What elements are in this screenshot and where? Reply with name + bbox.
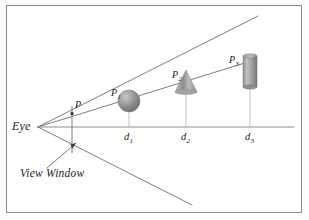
depth-d3-sub: 3 [251,137,255,145]
depth-d3-label: d3 [245,132,254,143]
point-p3-label: P3 [229,55,239,65]
depth-d2-base: d [181,131,186,142]
cylinder-object [243,54,257,89]
point-p2-label: P2 [172,70,182,80]
eye-label: Eye [12,120,31,132]
figure-root: Eye View Window P P1 P2 P3 d1 d2 d3 [0,0,309,220]
point-p3-sub: 3 [235,60,238,67]
depth-d2-sub: 2 [187,137,191,145]
depth-d3-base: d [245,131,250,142]
perspective-projection-diagram [0,0,309,220]
upper-frustum-ray [38,16,258,127]
view-window-label: View Window [20,168,84,180]
point-p2-sub: 2 [178,75,181,82]
point-p1-label: P1 [111,88,121,98]
object-sight-ray [38,62,248,127]
point-p-marker [71,112,74,115]
depth-d1-label: d1 [124,132,133,143]
lower-frustum-ray [38,127,192,205]
point-p-label: P [75,100,81,110]
depth-d1-base: d [124,131,129,142]
point-p1-sub: 1 [117,93,120,100]
view-window-leader-line [47,143,76,168]
depth-d2-label: d2 [181,132,190,143]
sphere-object [118,90,140,112]
depth-d1-sub: 1 [130,137,134,145]
